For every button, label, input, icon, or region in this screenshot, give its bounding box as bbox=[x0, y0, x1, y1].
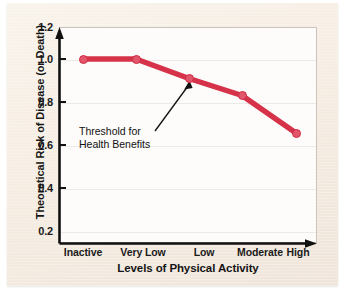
gridline-1-0 bbox=[60, 60, 316, 61]
xtick-label-high: High bbox=[268, 246, 328, 258]
x-axis-label: Levels of Physical Activity bbox=[59, 262, 317, 274]
gridline-0-2 bbox=[60, 232, 316, 233]
data-point-inactive bbox=[79, 55, 88, 64]
gridline-0-4 bbox=[60, 189, 316, 190]
data-point-very-low bbox=[132, 55, 141, 64]
annotation-line-2: Health Benefits bbox=[79, 138, 150, 151]
y-axis-label: Theoretical Risk of Disease (or Death) bbox=[34, 12, 46, 232]
data-point-moderate bbox=[238, 91, 247, 100]
data-point-high bbox=[292, 129, 301, 138]
gridline-0-8 bbox=[60, 103, 316, 104]
chart-figure: 1.2 1.0 0.8 0.6 0.4 0.2 Inactive Very Lo… bbox=[0, 0, 345, 298]
threshold-annotation: Threshold for Health Benefits bbox=[79, 125, 150, 150]
data-point-low bbox=[185, 74, 194, 83]
annotation-line-1: Threshold for bbox=[79, 125, 150, 138]
